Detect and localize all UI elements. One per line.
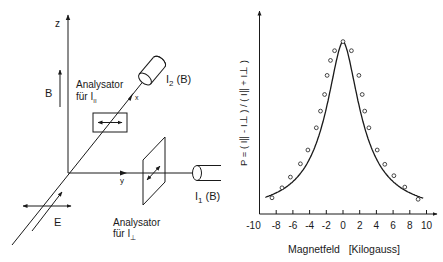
x-tick-label: -10 xyxy=(246,220,261,231)
data-point xyxy=(325,74,329,78)
data-point xyxy=(350,49,354,53)
x-tick-label: 0 xyxy=(340,220,346,231)
x-tick-label: 10 xyxy=(421,220,433,231)
x-axis-title: Magnetfeld [Kilogauss] xyxy=(288,243,400,255)
analyzer-perp-label-line1: Analysator xyxy=(113,217,161,228)
data-point xyxy=(280,186,284,190)
analyzer-parallel-label-line2: für III xyxy=(76,91,97,104)
analyzer-perp-plane xyxy=(143,137,165,205)
x-tick-label: 4 xyxy=(374,220,380,231)
data-point xyxy=(367,126,371,130)
data-point xyxy=(314,126,318,130)
data-markers xyxy=(270,40,420,202)
detector-i1-icon xyxy=(193,166,222,181)
x-axis-label: x xyxy=(135,94,139,101)
analyzer-parallel-label-line1: Analysator xyxy=(76,79,124,90)
x-tick-label: -4 xyxy=(305,220,314,231)
data-point xyxy=(392,174,396,178)
analyzer-perp-label-line2: für I⊥ xyxy=(113,228,136,241)
data-point xyxy=(323,93,327,97)
data-point xyxy=(289,175,293,179)
y-axis-label: y xyxy=(120,176,124,185)
x-tick-label: 8 xyxy=(407,220,413,231)
detector-i2-icon xyxy=(136,54,167,87)
x-tick-label: 2 xyxy=(357,220,363,231)
data-point xyxy=(329,59,333,63)
data-point xyxy=(375,148,379,152)
data-point xyxy=(341,40,345,44)
detector-i1-label: I1 (B) xyxy=(195,190,220,205)
data-point xyxy=(363,109,367,113)
data-point xyxy=(319,109,323,113)
setup-labels: z x y B E Analysator für III Analysator … xyxy=(45,18,220,241)
e-field-label: E xyxy=(54,216,61,228)
z-axis-label: z xyxy=(55,18,60,29)
data-point xyxy=(383,162,387,166)
b-field-label: B xyxy=(45,87,52,99)
y-axis-arrow xyxy=(120,171,127,176)
x-tick-label: -8 xyxy=(272,220,281,231)
data-point xyxy=(357,74,361,78)
detector-i2-label: I2 (B) xyxy=(166,73,191,88)
data-point xyxy=(299,162,303,166)
data-point xyxy=(416,197,420,201)
setup-diagram xyxy=(12,15,221,245)
data-point xyxy=(333,49,337,53)
y-axis-title: P = ( I∥ - I⊥ ) / ( I∥ + I⊥ ) xyxy=(238,60,250,166)
figure: z x y B E Analysator für III Analysator … xyxy=(0,0,443,262)
data-point xyxy=(306,148,310,152)
fit-curve xyxy=(265,42,423,199)
x-tick-label: -6 xyxy=(288,220,297,231)
data-point xyxy=(403,185,407,189)
x-tick-label: -2 xyxy=(322,220,331,231)
data-point xyxy=(270,196,274,200)
x-tick-label: 6 xyxy=(390,220,396,231)
x-ticks xyxy=(276,210,426,214)
polarization-chart: -10-8-6-4-20246810 Magnetfeld [Kilogauss… xyxy=(238,11,437,255)
x-tick-labels: -10-8-6-4-20246810 xyxy=(246,220,432,231)
data-point xyxy=(360,93,364,97)
